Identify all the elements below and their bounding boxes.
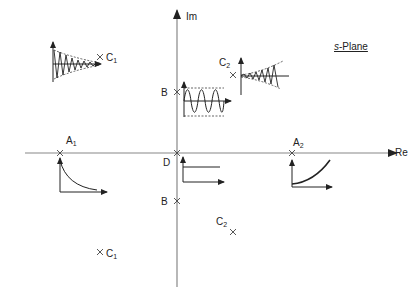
inset-growing-exponential [292,160,332,187]
label-c1-upper: C1 [106,53,117,64]
inset-sustained-oscillation [184,82,231,117]
label-c2-lower: C2 [216,217,227,228]
s-plane-title: s-Plane [334,42,368,52]
pole-c2-upper-marker [230,72,236,78]
inset-step-response [183,157,224,182]
pole-markers [57,54,295,255]
imaginary-axis-label: Im [186,12,197,22]
label-b-lower: B [161,197,168,207]
label-b-upper: B [161,88,168,98]
pole-c2-lower-marker [230,229,236,235]
inset-decaying-exponential [60,158,107,192]
label-c1-lower: C1 [106,249,117,260]
inset-damped-oscillation [53,42,101,82]
label-a1: A1 [66,136,77,147]
label-a2: A2 [293,138,304,149]
pole-c1-upper-marker [97,54,103,60]
pole-c1-lower-marker [97,249,103,255]
label-d: D [163,158,170,168]
real-axis-label: Re [395,148,408,158]
title-text: -Plane [339,41,368,52]
inset-growing-oscillation [241,58,289,95]
label-c2-upper: C2 [219,58,230,69]
